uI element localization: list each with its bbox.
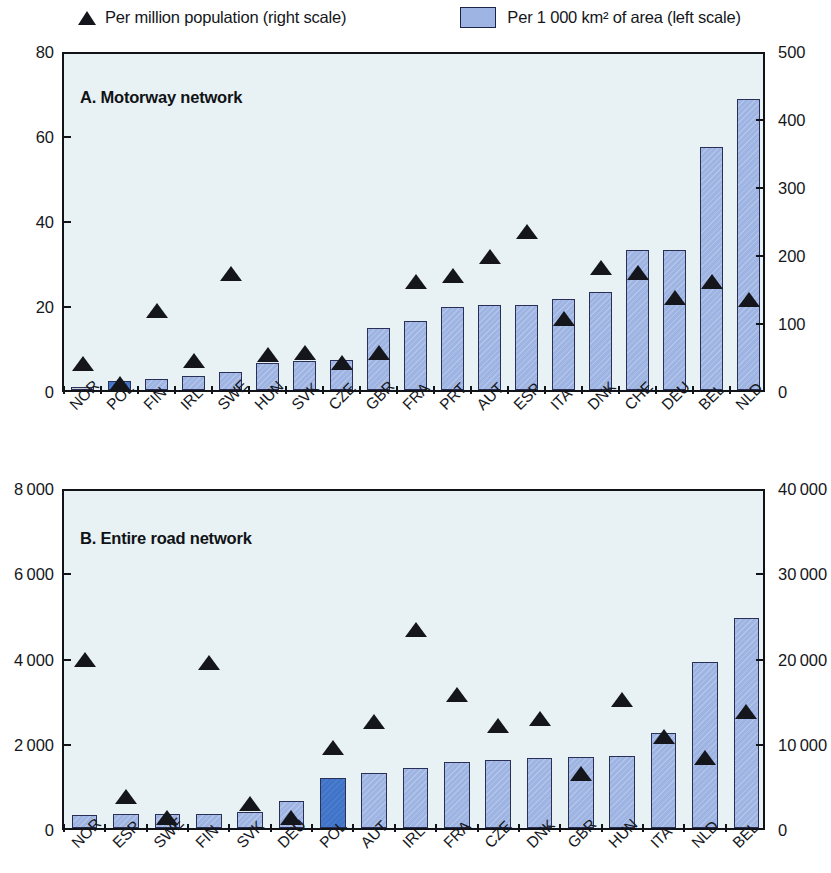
marker-esp [516, 224, 538, 239]
y2-axis-tick-label: 30 000 [778, 566, 827, 583]
y-axis-tick-label: 2 000 [0, 737, 54, 754]
y-axis-tickmark [62, 573, 71, 575]
marker-svk [294, 345, 316, 360]
x-tickmark [211, 386, 213, 394]
y2-axis-tick-label: 500 [778, 44, 806, 61]
y-axis-tickmark [62, 744, 71, 746]
category-labels-b: NORESPSWEFINSVKDEUPOLAUTIRLFRACZEDNKGBRH… [0, 833, 831, 873]
x-tickmark [270, 824, 272, 832]
x-tickmark [137, 386, 139, 394]
x-tickmark [174, 386, 176, 394]
marker-dnk [590, 260, 612, 275]
legend-item-area: Per 1 000 km² of area (left scale) [460, 7, 740, 28]
x-tickmark [63, 386, 65, 394]
bar-aut [478, 305, 501, 390]
y2-axis-tick-label: 100 [778, 316, 806, 333]
y-axis-tickmark [62, 221, 71, 223]
marker-nld [738, 292, 760, 307]
marker-aut [479, 249, 501, 264]
marker-prt [442, 268, 464, 283]
panel-entire-road-network: B. Entire road network 02 0004 0006 0008… [0, 455, 831, 873]
y2-axis-tickmark [756, 323, 765, 325]
x-tickmark [725, 824, 727, 832]
bar-deu [663, 250, 686, 390]
chart-legend: Per million population (right scale) Per… [60, 2, 770, 32]
marker-gbr [570, 766, 592, 781]
marker-ita [553, 311, 575, 326]
bar-fra [404, 321, 427, 390]
marker-hun [611, 692, 633, 707]
marker-fra [446, 687, 468, 702]
y2-axis-tick-label: 20 000 [778, 652, 827, 669]
x-tickmark [729, 386, 731, 394]
y2-axis-tick-label: 400 [778, 112, 806, 129]
x-tickmark [601, 824, 603, 832]
x-tickmark [581, 386, 583, 394]
bar-dnk [589, 292, 612, 390]
bar-fra [444, 762, 470, 828]
y2-axis-tickmark [756, 187, 765, 189]
category-labels-a: NORPOLFINIRLSWEHUNSVKCZEGBRFRAPRTAUTESPI… [0, 395, 831, 455]
x-tickmark [63, 824, 65, 832]
figure-root: Per million population (right scale) Per… [0, 0, 831, 873]
x-tickmark [559, 824, 561, 832]
y-axis-tick-label: 40 [0, 214, 54, 231]
marker-nor [74, 652, 96, 667]
marker-bel [735, 704, 757, 719]
legend-label-population: Per million population (right scale) [105, 8, 346, 27]
marker-fin [146, 303, 168, 318]
marker-ita [653, 729, 675, 744]
x-tickmark [187, 824, 189, 832]
marker-swe [220, 266, 242, 281]
y2-axis-tickmark [756, 659, 765, 661]
legend-item-population: Per million population (right scale) [78, 8, 346, 27]
x-tickmark [311, 824, 313, 832]
y-axis-tick-label: 20 [0, 299, 54, 316]
x-tickmark [433, 386, 435, 394]
bar-bel [734, 618, 760, 828]
x-tickmark [477, 824, 479, 832]
x-tickmark [359, 386, 361, 394]
x-tickmark [352, 824, 354, 832]
y-axis-tick-label: 80 [0, 44, 54, 61]
y-axis-tick-label: 8 000 [0, 481, 54, 498]
x-tickmark [104, 824, 106, 832]
x-tickmark [507, 386, 509, 394]
x-tickmark [322, 386, 324, 394]
marker-fin [198, 655, 220, 670]
marker-pol [322, 740, 344, 755]
bar-cze [485, 760, 511, 828]
marker-dnk [529, 711, 551, 726]
bar-aut [361, 773, 387, 828]
panel-b-title: B. Entire road network [80, 529, 252, 548]
y2-axis-tick-label: 10 000 [778, 737, 827, 754]
bar-dnk [527, 758, 553, 828]
legend-label-area: Per 1 000 km² of area (left scale) [507, 8, 740, 27]
bar-prt [441, 307, 464, 390]
y2-axis-tickmark [756, 119, 765, 121]
x-tickmark [435, 824, 437, 832]
y2-axis-tick-label: 200 [778, 248, 806, 265]
marker-svk [239, 796, 261, 811]
bar-nld [692, 662, 718, 828]
x-tickmark [228, 824, 230, 832]
marker-deu [664, 290, 686, 305]
marker-aut [363, 714, 385, 729]
marker-cze [331, 355, 353, 370]
y2-axis-tickmark [756, 744, 765, 746]
x-tickmark [146, 824, 148, 832]
marker-che [627, 265, 649, 280]
bar-ita [651, 733, 677, 828]
panel-a-title: A. Motorway network [80, 88, 242, 107]
marker-hun [257, 347, 279, 362]
panel-motorway-network: A. Motorway network 02040608001002003004… [0, 40, 831, 455]
x-tickmark [394, 824, 396, 832]
marker-nld [694, 750, 716, 765]
marker-esp [115, 789, 137, 804]
bar-bel [700, 147, 723, 390]
marker-fra [405, 274, 427, 289]
triangle-marker-icon [78, 11, 96, 25]
marker-irl [405, 622, 427, 637]
marker-irl [183, 353, 205, 368]
y-axis-tick-label: 4 000 [0, 652, 54, 669]
